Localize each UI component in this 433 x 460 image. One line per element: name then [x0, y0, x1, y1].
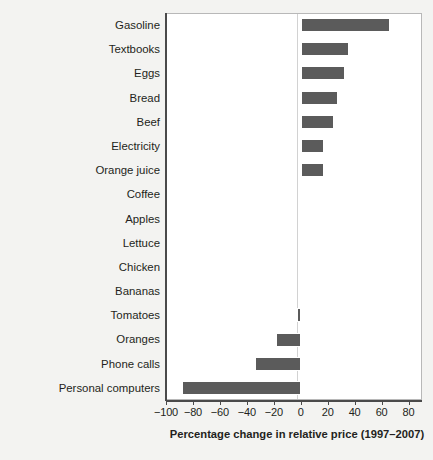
category-label: Personal computers — [59, 376, 160, 400]
x-tick-mark — [247, 400, 248, 405]
x-tick-mark — [382, 400, 383, 405]
x-tick-mark — [220, 400, 221, 405]
bar-row: Bread — [0, 86, 433, 110]
bar-row: Chicken — [0, 255, 433, 279]
bar-row: Coffee — [0, 182, 433, 206]
bar — [301, 139, 324, 153]
category-label: Apples — [125, 207, 160, 231]
x-axis-line — [166, 400, 422, 402]
x-tick-label: 80 — [389, 406, 429, 418]
bar-row: Tomatoes — [0, 303, 433, 327]
bar-row: Textbooks — [0, 37, 433, 61]
bar — [301, 260, 303, 274]
bar — [301, 91, 339, 105]
bar-row: Personal computers — [0, 376, 433, 400]
category-label: Phone calls — [101, 352, 160, 376]
bar-row: Beef — [0, 110, 433, 134]
category-label: Bananas — [115, 279, 160, 303]
bar — [301, 18, 390, 32]
bar — [297, 308, 301, 322]
bar — [301, 66, 345, 80]
bar — [301, 212, 304, 226]
bar-chart-figure: GasolineTextbooksEggsBreadBeefElectricit… — [0, 0, 433, 460]
category-label: Lettuce — [123, 231, 160, 255]
category-label: Oranges — [116, 327, 160, 351]
category-label: Coffee — [127, 182, 160, 206]
x-tick-mark — [274, 400, 275, 405]
bar — [301, 163, 324, 177]
bar-row: Lettuce — [0, 231, 433, 255]
category-label: Tomatoes — [111, 303, 160, 327]
bar — [301, 236, 303, 250]
x-tick-mark — [328, 400, 329, 405]
bar — [301, 115, 335, 129]
category-label: Orange juice — [95, 158, 160, 182]
bar-row: Bananas — [0, 279, 433, 303]
category-label: Eggs — [134, 61, 160, 85]
category-label: Electricity — [111, 134, 160, 158]
category-label: Beef — [137, 110, 160, 134]
x-axis-title: Percentage change in relative price (199… — [166, 428, 428, 440]
x-tick-mark — [355, 400, 356, 405]
category-label: Gasoline — [115, 13, 160, 37]
x-tick-mark — [409, 400, 410, 405]
category-label: Textbooks — [109, 37, 160, 61]
bar-row: Apples — [0, 207, 433, 231]
bar — [299, 284, 301, 298]
x-tick-mark — [193, 400, 194, 405]
x-tick-mark — [301, 400, 302, 405]
category-label: Bread — [130, 86, 160, 110]
bar-row: Orange juice — [0, 158, 433, 182]
bar — [182, 381, 301, 395]
x-tick-mark — [166, 400, 167, 405]
bar — [301, 187, 304, 201]
bar — [276, 333, 300, 347]
bar — [301, 42, 350, 56]
bar-row: Gasoline — [0, 13, 433, 37]
bar-row: Phone calls — [0, 352, 433, 376]
bar-row: Eggs — [0, 61, 433, 85]
bar — [255, 357, 301, 371]
bar-row: Oranges — [0, 327, 433, 351]
category-label: Chicken — [119, 255, 160, 279]
bar-row: Electricity — [0, 134, 433, 158]
